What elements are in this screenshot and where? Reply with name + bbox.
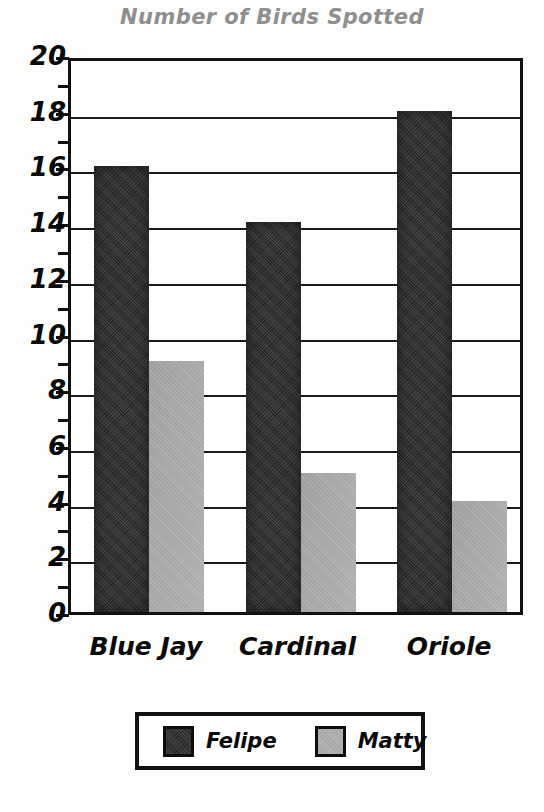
y-axis-label: 14 — [6, 210, 66, 236]
legend-label-matty: Matty — [358, 729, 427, 753]
legend-entry-felipe: Felipe — [163, 716, 277, 766]
y-axis-label: 2 — [6, 544, 66, 570]
y-axis-label: 12 — [6, 266, 66, 292]
y-axis-label: 10 — [6, 322, 66, 348]
chart-title: Number of Birds Spotted — [0, 5, 544, 29]
chart-legend: Felipe Matty — [135, 712, 425, 770]
x-axis-label-oriole: Oriole — [369, 632, 529, 661]
legend-entry-matty: Matty — [315, 716, 427, 766]
bar-matty-oriole — [452, 501, 507, 612]
bar-felipe-blue-jay — [94, 166, 149, 612]
x-axis-label-blue-jay: Blue Jay — [66, 632, 226, 661]
y-axis-label: 18 — [6, 99, 66, 125]
bar-matty-blue-jay — [149, 361, 204, 612]
legend-swatch-matty-icon — [315, 726, 346, 757]
y-axis-label: 20 — [6, 43, 66, 69]
gridline — [71, 117, 520, 119]
plot-area — [68, 58, 523, 615]
y-axis-label: 4 — [6, 489, 66, 515]
x-axis-label-cardinal: Cardinal — [218, 632, 378, 661]
bar-felipe-cardinal — [246, 222, 301, 612]
legend-label-felipe: Felipe — [206, 729, 277, 753]
y-axis-label: 6 — [6, 433, 66, 459]
bar-matty-cardinal — [301, 473, 356, 612]
legend-swatch-felipe-icon — [163, 726, 194, 757]
y-axis-label: 0 — [6, 600, 66, 626]
y-axis-label: 16 — [6, 154, 66, 180]
y-axis-label: 8 — [6, 377, 66, 403]
bar-chart: Number of Birds Spotted 0246810121416182… — [0, 0, 544, 812]
bar-felipe-oriole — [397, 111, 452, 612]
